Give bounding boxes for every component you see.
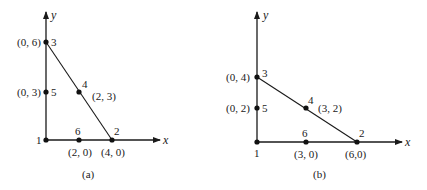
node-1	[43, 137, 48, 142]
figure: y x 1 2 3 4 5 6 (4, 0) (0, 6) (2, 3) (0,…	[0, 0, 427, 190]
coord-label-3: (0, 4)	[226, 71, 250, 84]
coord-label-3: (0, 6)	[17, 36, 41, 49]
node-number-6: 6	[75, 125, 81, 137]
node-number-1: 1	[254, 147, 260, 159]
node-4	[303, 105, 308, 110]
node-number-4: 4	[308, 94, 314, 106]
diagram-b: y x 1 2 3 4 5 6 (6,0) (0, 4) (3, 2) (0, …	[226, 8, 411, 181]
node-2	[354, 139, 359, 144]
x-axis-label: x	[404, 135, 411, 149]
y-axis-label: y	[50, 8, 57, 22]
node-5	[43, 89, 48, 94]
coord-label-2: (6,0)	[345, 148, 366, 161]
caption-b: (b)	[313, 168, 326, 181]
node-6	[76, 137, 81, 142]
coord-label-5: (0, 3)	[17, 86, 41, 99]
node-3	[43, 39, 48, 44]
node-number-5: 5	[262, 102, 268, 114]
coord-label-6: (2, 0)	[68, 146, 92, 159]
node-number-2: 2	[359, 127, 365, 139]
diagram-a: y x 1 2 3 4 5 6 (4, 0) (0, 6) (2, 3) (0,…	[17, 8, 169, 181]
node-3	[254, 74, 259, 79]
node-number-3: 3	[51, 36, 57, 48]
coord-label-5: (0, 2)	[226, 102, 250, 115]
node-number-2: 2	[114, 125, 120, 137]
coord-label-4: (2, 3)	[92, 90, 116, 103]
caption-a: (a)	[82, 168, 95, 181]
coord-label-4: (3, 2)	[318, 102, 342, 115]
node-number-1: 1	[36, 134, 42, 146]
node-2	[109, 137, 114, 142]
node-number-4: 4	[82, 78, 88, 90]
node-1	[254, 139, 259, 144]
coord-label-2: (4, 0)	[101, 146, 125, 159]
node-number-6: 6	[302, 127, 308, 139]
node-6	[303, 139, 308, 144]
x-axis-label: x	[162, 133, 169, 147]
node-number-3: 3	[262, 67, 268, 79]
node-4	[76, 89, 81, 94]
y-axis-label: y	[262, 8, 269, 22]
node-number-5: 5	[51, 86, 57, 98]
coord-label-6: (3, 0)	[294, 148, 318, 161]
node-5	[254, 105, 259, 110]
